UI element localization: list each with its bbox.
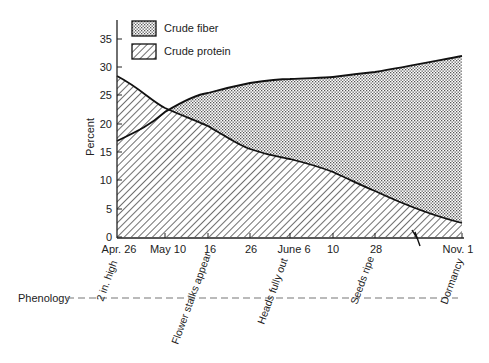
svg-text:26: 26 (245, 243, 257, 255)
legend-label-protein: Crude protein (164, 45, 231, 57)
legend-label-fiber: Crude fiber (164, 22, 219, 34)
chart-canvas: 0 5 10 15 20 25 30 35 Percent Apr. 26 Ma… (0, 0, 489, 363)
svg-text:Heads fully out: Heads fully out (255, 256, 290, 325)
legend: Crude fiber Crude protein (132, 21, 231, 59)
x-tick-labels: Apr. 26 May 10 16 26 June 6 10 28 Nov. 1 (102, 243, 474, 255)
svg-text:30: 30 (100, 61, 112, 73)
svg-text:Seeds ripe: Seeds ripe (348, 254, 376, 305)
y-axis-label: Percent (84, 118, 96, 156)
svg-text:Nov. 1: Nov. 1 (443, 243, 474, 255)
legend-swatch-protein (132, 44, 156, 59)
svg-text:28: 28 (370, 243, 382, 255)
svg-text:Flower stalks appear: Flower stalks appear (169, 250, 214, 346)
svg-text:25: 25 (100, 89, 112, 101)
svg-text:20: 20 (100, 118, 112, 130)
svg-text:June 6: June 6 (277, 243, 310, 255)
svg-text:10: 10 (327, 243, 339, 255)
svg-text:2 in. high: 2 in. high (94, 258, 120, 302)
legend-swatch-fiber (132, 21, 156, 36)
svg-text:15: 15 (100, 146, 112, 158)
svg-text:0: 0 (106, 231, 112, 243)
svg-text:Dormancy: Dormancy (438, 256, 466, 306)
y-tick-labels: 0 5 10 15 20 25 30 35 (100, 33, 112, 243)
phenology-label: Phenology (18, 292, 70, 304)
svg-text:35: 35 (100, 33, 112, 45)
svg-text:Apr. 26: Apr. 26 (102, 243, 137, 255)
svg-text:May 10: May 10 (150, 243, 186, 255)
svg-text:5: 5 (106, 203, 112, 215)
svg-text:10: 10 (100, 174, 112, 186)
